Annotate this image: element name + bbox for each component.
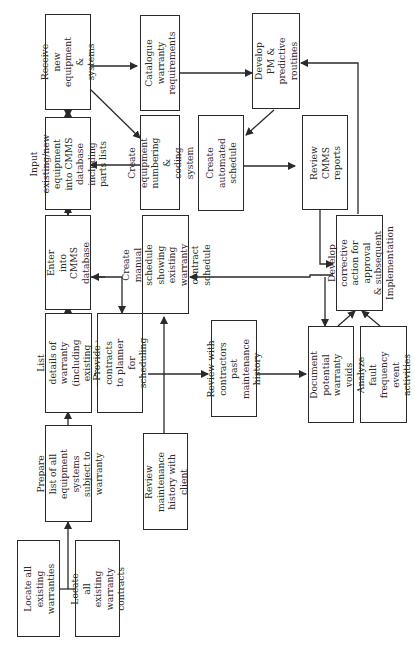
node-label: Review with contractors past maintenance… xyxy=(205,338,263,398)
node-review-history-client: Review maintenance history with client xyxy=(143,433,188,530)
node-review-contractors: Review with contractors past maintenance… xyxy=(211,320,257,417)
edge-analyze-to-corrective xyxy=(362,311,380,326)
node-label: Create automated schedule xyxy=(204,138,239,188)
node-locate-contracts: Locate all existing warranty contracts xyxy=(75,540,120,637)
node-label: Create manual schedule showing existing … xyxy=(120,243,212,285)
node-label: Review maintenance history with client xyxy=(143,451,189,511)
node-prepare-list: Prepare list of all equipment systems su… xyxy=(45,425,92,522)
node-locate-warranties: Locate all existing warranties xyxy=(17,540,60,637)
node-label: Review CMMS reports xyxy=(308,145,343,179)
node-enter-cmms: Enter into CMMS database xyxy=(45,215,91,310)
node-label: Receive new equipment & systems xyxy=(39,37,97,87)
node-develop-pm: Develop PM & predictive routines xyxy=(252,13,300,109)
node-create-numbering: Create equipment numbering & coding syst… xyxy=(140,115,180,210)
edge-enter-to-provide-contracts xyxy=(90,277,122,313)
node-label: Analyze fault frequency event activities xyxy=(355,351,413,398)
flowchart-canvas: Locate all existing warranties Locate al… xyxy=(0,0,415,648)
node-label: Locate all existing warranty contracts xyxy=(69,567,127,611)
edge-develop-pm-to-automated xyxy=(246,110,274,135)
node-label: Catalogue warranty requirements xyxy=(143,32,178,95)
node-list-details: List details of warranty (including exis… xyxy=(45,313,92,413)
edge-receive-to-numbering xyxy=(89,88,140,138)
node-analyze-fault: Analyze fault frequency event activities xyxy=(360,326,407,423)
node-document-voids: Document potential warranty voids xyxy=(308,326,354,423)
node-label: Locate all existing warranties xyxy=(21,563,56,613)
edge-voids-to-corrective xyxy=(338,311,355,326)
node-review-cmms-reports: Review CMMS reports xyxy=(302,115,348,210)
node-input-equipment: Input existing/new equipment into CMMS d… xyxy=(45,117,91,210)
node-catalogue-warranty: Catalogue warranty requirements xyxy=(140,15,180,111)
node-create-manual-schedule: Create manual schedule showing existing … xyxy=(142,215,189,314)
node-create-automated-schedule: Create automated schedule xyxy=(198,115,244,211)
node-label: Enter into CMMS database xyxy=(45,241,91,283)
node-develop-corrective: Develop corrective action for approval &… xyxy=(336,215,383,311)
node-label: Develop PM & predictive routines xyxy=(253,38,299,85)
node-label: Input existing/new equipment into CMMS d… xyxy=(28,134,109,193)
node-provide-contracts: Provide contracts to planner for schedul… xyxy=(97,313,143,413)
node-label: Create equipment numbering & coding syst… xyxy=(126,137,195,188)
node-label: Prepare list of all equipment systems su… xyxy=(34,449,103,499)
node-receive-equipment: Receive new equipment & systems xyxy=(45,14,91,110)
node-label: Document potential warranty voids xyxy=(308,351,354,399)
node-label: Provide contracts to planner for schedul… xyxy=(91,338,149,389)
node-label: Develop corrective action for approval &… xyxy=(325,226,394,300)
